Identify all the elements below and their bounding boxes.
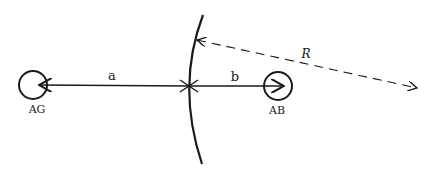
segment-a-label: a — [108, 68, 116, 83]
radius-label: R — [300, 47, 310, 61]
segment-a-line — [39, 85, 189, 86]
node-ag-label: AG — [28, 103, 46, 116]
boundary-arc — [189, 15, 203, 164]
diagram-canvas: AG AB a b R — [0, 0, 440, 173]
segment-b-label: b — [231, 69, 239, 84]
node-ab-label: AB — [268, 104, 285, 117]
